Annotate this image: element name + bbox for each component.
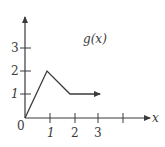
- x-axis-label: x: [152, 111, 159, 125]
- y-tick-label-2: 2: [11, 64, 19, 78]
- y-tick-label-3: 3: [11, 41, 19, 55]
- x-tick-label-2: 2: [71, 126, 79, 140]
- g-of-x-line: [25, 71, 100, 118]
- x-tick-label-3: 3: [94, 126, 102, 140]
- x-tick-label-1: 1: [47, 126, 55, 140]
- function-label: g(x): [83, 32, 107, 46]
- origin-label: 0: [17, 119, 25, 133]
- y-tick-label-1: 1: [11, 87, 19, 101]
- chart: 1 2 3 0 1 2 3 x g(x): [0, 0, 165, 147]
